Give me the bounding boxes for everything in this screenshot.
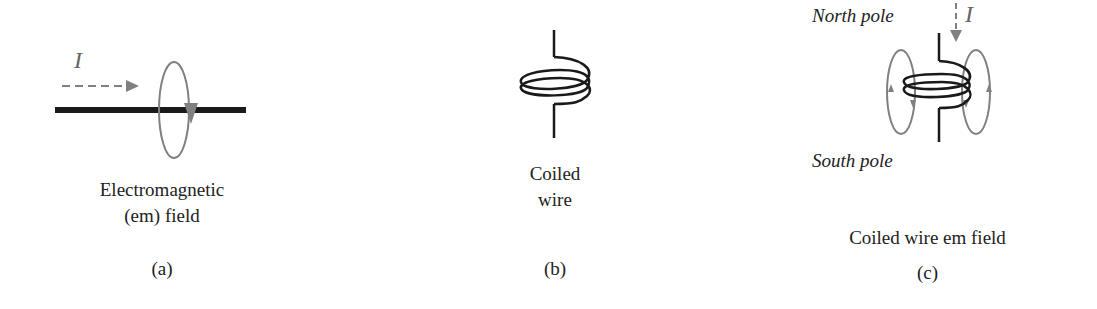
panel-a-graphic: [55, 62, 246, 158]
current-arrow-head: [126, 80, 139, 92]
panel-c-graphic: [887, 3, 992, 142]
current-symbol-c: I: [965, 1, 973, 27]
caption-c: Coiled wire em field: [820, 225, 1035, 251]
current-arrow-head-down: [950, 30, 962, 42]
field-arrow-up-right: [986, 84, 992, 92]
current-symbol-a: I: [74, 47, 82, 73]
panel-tag-c: (c): [820, 260, 1035, 286]
panel-tag-b: (b): [505, 256, 605, 282]
panel-b-graphic: [521, 30, 590, 138]
caption-b-line2: wire: [505, 187, 605, 213]
field-arrow-up-left: [888, 84, 894, 92]
caption-b-line1: Coiled: [505, 161, 605, 187]
caption-a-line2: (em) field: [64, 203, 260, 229]
coil-turns: [521, 57, 590, 104]
panel-tag-a: (a): [64, 256, 260, 282]
south-pole-label: South pole: [812, 148, 893, 174]
caption-a-line1: Electromagnetic: [64, 177, 260, 203]
field-direction-arrow-icon: [184, 103, 198, 124]
north-pole-label: North pole: [812, 3, 894, 29]
